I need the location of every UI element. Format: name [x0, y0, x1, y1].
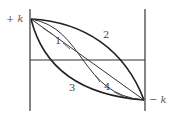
diagram-canvas — [0, 0, 175, 129]
leader-4b — [95, 75, 100, 82]
curve-1-label: 1 — [55, 36, 61, 46]
leader-1 — [43, 28, 52, 34]
bottom-axis-label: − k — [149, 95, 167, 105]
curve-3-label: 3 — [69, 83, 75, 93]
curve-4-label: 4 — [104, 82, 110, 92]
curve-2-label: 2 — [103, 30, 109, 40]
top-axis-label: + k — [6, 14, 24, 24]
